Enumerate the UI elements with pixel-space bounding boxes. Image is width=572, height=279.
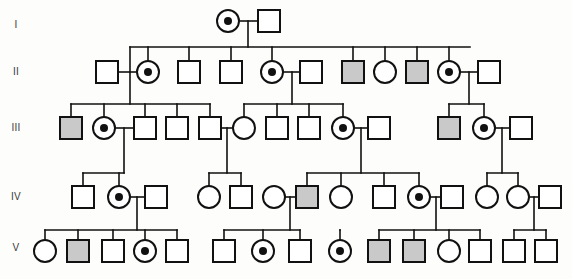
male-symbol <box>438 117 460 139</box>
male-symbol <box>289 240 311 262</box>
male-symbol <box>96 61 118 83</box>
individual-IV-9[interactable] <box>373 186 395 208</box>
individual-II-1[interactable] <box>96 61 118 83</box>
individual-V-8[interactable] <box>289 240 311 262</box>
male-symbol <box>441 186 463 208</box>
individual-V-4[interactable] <box>134 240 156 262</box>
female-symbol <box>476 186 498 208</box>
male-symbol <box>67 240 89 262</box>
carrier-dot-icon <box>100 124 108 132</box>
individual-IV-1[interactable] <box>72 186 94 208</box>
male-symbol <box>72 186 94 208</box>
individual-III-2[interactable] <box>93 117 115 139</box>
generation-label-V: V <box>13 242 20 253</box>
individual-I-2[interactable] <box>258 10 280 32</box>
male-symbol <box>535 240 557 262</box>
male-symbol <box>296 186 318 208</box>
individual-IV-6[interactable] <box>263 186 285 208</box>
individual-V-14[interactable] <box>503 240 525 262</box>
individual-IV-10[interactable] <box>408 186 430 208</box>
individual-IV-4[interactable] <box>198 186 220 208</box>
individual-III-12[interactable] <box>473 117 495 139</box>
carrier-dot-icon <box>259 247 267 255</box>
individual-IV-3[interactable] <box>145 186 167 208</box>
individual-V-10[interactable] <box>368 240 390 262</box>
individual-III-3[interactable] <box>134 117 156 139</box>
individual-V-7[interactable] <box>252 240 274 262</box>
individual-II-10[interactable] <box>438 61 460 83</box>
male-symbol <box>298 117 320 139</box>
carrier-dot-icon <box>445 68 453 76</box>
individual-V-15[interactable] <box>535 240 557 262</box>
generation-label-I: I <box>14 19 17 30</box>
individual-III-10[interactable] <box>368 117 390 139</box>
individual-IV-11[interactable] <box>441 186 463 208</box>
individual-II-2[interactable] <box>137 61 159 83</box>
individual-II-8[interactable] <box>374 61 396 83</box>
carrier-dot-icon <box>339 124 347 132</box>
generation-label-III: III <box>11 122 20 133</box>
individual-III-7[interactable] <box>266 117 288 139</box>
female-symbol <box>198 186 220 208</box>
individual-III-4[interactable] <box>166 117 188 139</box>
individual-II-5[interactable] <box>261 61 283 83</box>
male-symbol <box>403 240 425 262</box>
individual-V-6[interactable] <box>213 240 235 262</box>
male-symbol <box>230 186 252 208</box>
carrier-dot-icon <box>141 247 149 255</box>
individual-V-13[interactable] <box>469 240 491 262</box>
individual-II-9[interactable] <box>406 61 428 83</box>
male-symbol <box>266 117 288 139</box>
male-symbol <box>166 117 188 139</box>
female-symbol <box>330 186 352 208</box>
male-symbol <box>469 240 491 262</box>
male-symbol <box>199 117 221 139</box>
individual-IV-13[interactable] <box>507 186 529 208</box>
female-symbol <box>34 240 56 262</box>
carrier-dot-icon <box>268 68 276 76</box>
female-symbol <box>263 186 285 208</box>
male-symbol <box>213 240 235 262</box>
individual-V-9[interactable] <box>329 240 351 262</box>
individual-IV-8[interactable] <box>330 186 352 208</box>
individual-II-11[interactable] <box>478 61 500 83</box>
individual-IV-12[interactable] <box>476 186 498 208</box>
male-symbol <box>406 61 428 83</box>
individual-III-1[interactable] <box>60 117 82 139</box>
individual-III-9[interactable] <box>332 117 354 139</box>
generation-label-IV: IV <box>11 191 21 202</box>
female-symbol <box>507 186 529 208</box>
individual-V-5[interactable] <box>166 240 188 262</box>
individual-III-8[interactable] <box>298 117 320 139</box>
individual-IV-7[interactable] <box>296 186 318 208</box>
male-symbol <box>178 61 200 83</box>
individual-V-3[interactable] <box>102 240 124 262</box>
individual-I-1[interactable] <box>217 10 239 32</box>
male-symbol <box>342 61 364 83</box>
carrier-dot-icon <box>480 124 488 132</box>
individual-II-4[interactable] <box>220 61 242 83</box>
individual-V-2[interactable] <box>67 240 89 262</box>
individual-V-11[interactable] <box>403 240 425 262</box>
individual-IV-5[interactable] <box>230 186 252 208</box>
pedigree-canvas: IIIIIIIVV <box>0 0 572 279</box>
individual-IV-14[interactable] <box>539 186 561 208</box>
male-symbol <box>258 10 280 32</box>
individual-III-6[interactable] <box>233 117 255 139</box>
male-symbol <box>503 240 525 262</box>
individual-IV-2[interactable] <box>108 186 130 208</box>
male-symbol <box>166 240 188 262</box>
individual-II-7[interactable] <box>342 61 364 83</box>
male-symbol <box>220 61 242 83</box>
individual-V-1[interactable] <box>34 240 56 262</box>
carrier-dot-icon <box>336 247 344 255</box>
individual-V-12[interactable] <box>438 240 460 262</box>
individual-III-13[interactable] <box>510 117 532 139</box>
generation-label-layer: IIIIIIIVV <box>11 19 21 253</box>
individual-II-3[interactable] <box>178 61 200 83</box>
male-symbol <box>368 117 390 139</box>
carrier-dot-icon <box>115 193 123 201</box>
individual-II-6[interactable] <box>300 61 322 83</box>
individual-III-5[interactable] <box>199 117 221 139</box>
individual-III-11[interactable] <box>438 117 460 139</box>
